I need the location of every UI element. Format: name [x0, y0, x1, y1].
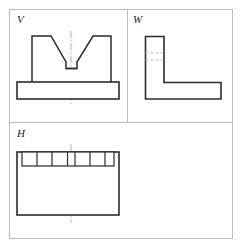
drawing-canvas: V W H: [0, 0, 244, 250]
orthographic-projection-svg: [0, 0, 244, 250]
side-view-l-profile: [146, 37, 222, 100]
front-view-group: [17, 31, 119, 105]
front-view-label: V: [17, 14, 24, 25]
top-view-label: H: [17, 128, 25, 139]
front-view-base-plate: [17, 82, 119, 99]
top-view-group: [17, 144, 119, 223]
side-view-label: W: [133, 14, 142, 25]
front-view-vblock-profile: [32, 36, 111, 82]
side-view-group: [146, 37, 222, 100]
